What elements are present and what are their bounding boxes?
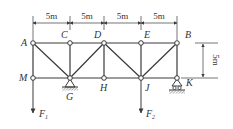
member-dg xyxy=(70,43,104,78)
member-bj xyxy=(141,43,177,78)
dim-label-vertical: 5m xyxy=(211,54,221,66)
label-f2-sub: 2 xyxy=(152,114,155,120)
dim-label-1: 5m xyxy=(46,11,58,21)
label-g: G xyxy=(66,91,73,102)
node-d xyxy=(102,41,107,46)
label-d: D xyxy=(93,29,102,40)
node-b xyxy=(175,41,180,46)
label-f1: F1 xyxy=(38,108,48,120)
label-c: C xyxy=(61,29,68,40)
node-m xyxy=(31,76,36,81)
label-f1-sub: 1 xyxy=(45,114,48,120)
node-a xyxy=(31,41,36,46)
roller-support-k xyxy=(169,79,185,94)
label-f2: F2 xyxy=(145,108,155,120)
node-j xyxy=(139,76,144,81)
dim-label-2: 5m xyxy=(81,11,93,21)
label-m: M xyxy=(18,72,28,83)
loads xyxy=(33,78,141,113)
label-j: J xyxy=(145,82,150,93)
dim-label-4: 5m xyxy=(153,11,165,21)
truss-nodes xyxy=(31,41,180,81)
label-e: E xyxy=(143,29,150,40)
label-a: A xyxy=(20,37,28,48)
node-c xyxy=(68,41,73,46)
truss-members xyxy=(33,43,177,78)
node-k xyxy=(175,76,180,81)
node-h xyxy=(102,76,107,81)
label-b: B xyxy=(185,29,191,40)
label-h: H xyxy=(99,82,108,93)
member-dj xyxy=(104,43,141,78)
node-g xyxy=(68,76,73,81)
member-ag xyxy=(33,43,70,78)
label-k: K xyxy=(185,77,194,88)
truss-diagram: 5m 5m 5m 5m 5m xyxy=(0,0,233,129)
dim-label-3: 5m xyxy=(117,11,129,21)
node-e xyxy=(139,41,144,46)
